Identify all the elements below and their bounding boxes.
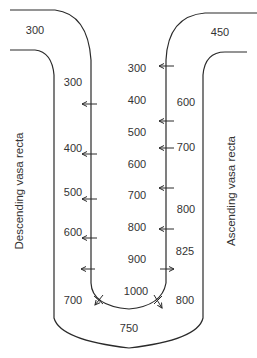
descending-value: 700 [64,294,82,306]
interstitium-value: 500 [128,126,146,138]
descending-value: 300 [64,76,82,88]
interstitium-value: 1000 [124,285,148,297]
left-wall-arrows [81,104,97,269]
descending-value: 600 [64,226,82,238]
bottom-loop-value: 750 [120,322,138,334]
ascending-value: 600 [177,96,195,108]
interstitium-value: 400 [128,94,146,106]
interstitium-value: 800 [128,221,146,233]
vasa-recta-diagram [0,0,257,358]
ascending-vasa-recta-label: Ascending vasa recta [225,126,237,256]
interstitium-value: 700 [128,189,146,201]
descending-vasa-recta-label: Descending vasa recta [13,126,25,256]
interstitium-value: 600 [128,158,146,170]
interstitium-value: 300 [128,62,146,74]
ascending-value: 800 [177,203,195,215]
descending-value: 500 [64,186,82,198]
ascending-value: 825 [176,245,194,257]
ascending-value: 450 [211,26,229,38]
descending-value: 400 [64,142,82,154]
ascending-value: 700 [177,141,195,153]
descending-value: 300 [26,24,44,36]
interstitium-value: 900 [128,253,146,265]
ascending-value: 800 [176,294,194,306]
